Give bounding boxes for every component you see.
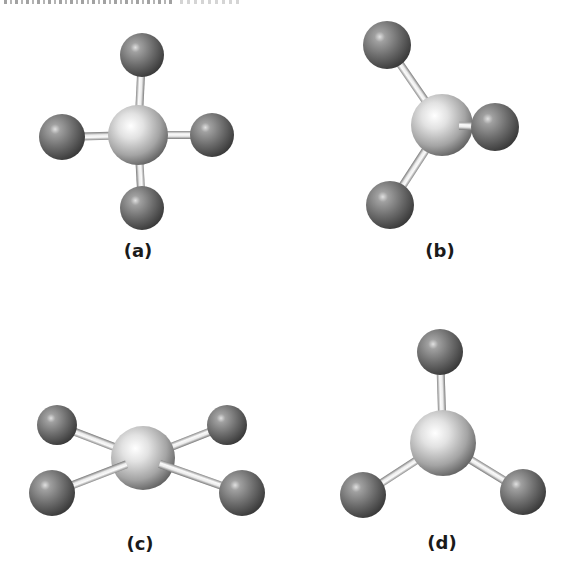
outer-atom	[29, 470, 75, 516]
outer-atom	[471, 103, 519, 151]
outer-atom	[366, 181, 414, 229]
outer-atom	[190, 113, 234, 157]
molecule-c	[29, 405, 265, 516]
molecule-a	[39, 33, 234, 230]
outer-atom	[363, 21, 411, 69]
panel-label-b: (b)	[425, 240, 454, 261]
molecule-b	[363, 21, 519, 229]
outer-atom	[120, 186, 164, 230]
outer-atom	[39, 114, 85, 160]
molecule-figure	[0, 0, 583, 587]
panel-label-c: (c)	[126, 533, 153, 554]
outer-atom	[207, 405, 247, 445]
outer-atom	[340, 472, 386, 518]
molecule-panels	[29, 21, 546, 518]
outer-atom	[417, 329, 463, 375]
outer-atom	[120, 33, 164, 77]
outer-atom	[37, 405, 77, 445]
central-atom	[108, 105, 168, 165]
outer-atom	[219, 470, 265, 516]
central-atom	[111, 426, 175, 490]
molecule-d	[340, 329, 546, 518]
panel-label-a: (a)	[124, 240, 153, 261]
panel-label-d: (d)	[427, 532, 456, 553]
central-atom	[410, 410, 476, 476]
outer-atom	[500, 469, 546, 515]
